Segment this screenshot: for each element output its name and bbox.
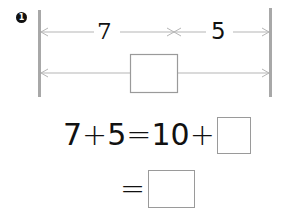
left-bar (38, 10, 41, 97)
equation-line-1: 7 + 5 = 10 + (63, 117, 251, 153)
equation-line-2: = (120, 170, 195, 207)
eq-term-7: 7 (63, 120, 82, 150)
eq-plus-sign-2: + (190, 120, 215, 150)
diagram-answer-box (131, 55, 178, 93)
answer-box-1[interactable] (217, 117, 251, 154)
eq-term-5: 5 (107, 120, 126, 150)
eq-term-10: 10 (151, 120, 189, 150)
right-bar (269, 8, 272, 97)
eq-equals-sign-2: = (120, 174, 145, 204)
tape-diagram (0, 0, 288, 110)
segment-label-7: 7 (95, 20, 114, 43)
answer-box-2[interactable] (148, 170, 195, 208)
eq-plus-sign: + (82, 120, 107, 150)
segment-label-5: 5 (209, 20, 228, 43)
eq-equals-sign: = (126, 120, 151, 150)
